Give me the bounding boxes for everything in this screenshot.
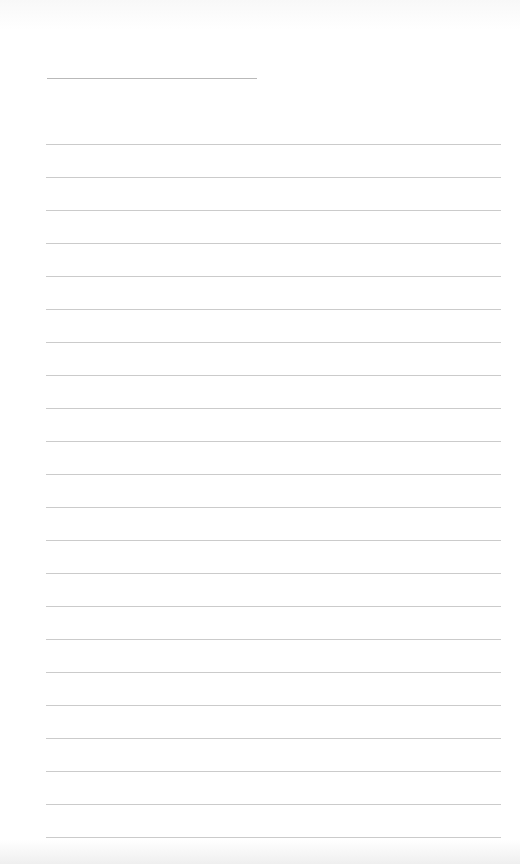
ruled-line [46,639,501,640]
header-line [47,78,257,79]
lined-paper-page [0,0,520,864]
ruled-line [46,705,501,706]
ruled-line [46,771,501,772]
ruled-line [46,738,501,739]
ruled-line [46,342,501,343]
ruled-line [46,309,501,310]
ruled-line [46,672,501,673]
ruled-line [46,210,501,211]
ruled-line [46,408,501,409]
ruled-line [46,243,501,244]
ruled-line [46,837,501,838]
ruled-line [46,507,501,508]
ruled-line [46,276,501,277]
paper-bleed-through [0,0,520,30]
ruled-line [46,540,501,541]
ruled-line [46,441,501,442]
ruled-line [46,177,501,178]
ruled-line [46,573,501,574]
ruled-line [46,474,501,475]
ruled-line [46,375,501,376]
ruled-line [46,804,501,805]
ruled-line [46,144,501,145]
paper-edge-shadow [0,840,520,864]
ruled-line [46,606,501,607]
